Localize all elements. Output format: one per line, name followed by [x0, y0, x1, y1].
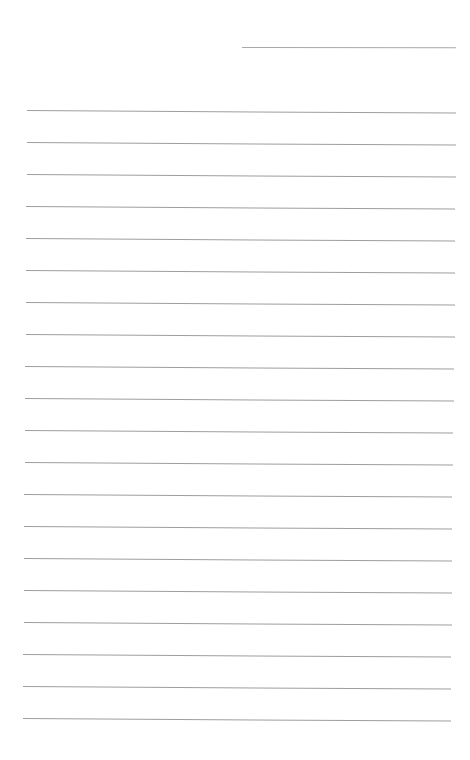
- ruled-line: [26, 302, 455, 306]
- ruled-line: [25, 462, 453, 466]
- lined-paper-page: [0, 0, 470, 760]
- ruled-lines-area: [0, 0, 470, 760]
- ruled-line: [24, 590, 452, 594]
- ruled-line: [24, 526, 452, 530]
- ruled-line: [26, 206, 455, 210]
- ruled-line: [25, 366, 454, 370]
- ruled-line: [23, 654, 451, 658]
- ruled-line: [27, 174, 456, 178]
- ruled-line: [27, 142, 456, 146]
- ruled-line: [24, 622, 452, 626]
- ruled-line: [26, 270, 455, 274]
- ruled-line: [25, 430, 453, 434]
- ruled-line: [23, 686, 451, 690]
- ruled-line: [26, 334, 455, 338]
- ruled-line: [24, 558, 452, 562]
- ruled-line: [27, 110, 456, 114]
- ruled-line: [25, 398, 454, 402]
- ruled-line: [24, 494, 452, 498]
- ruled-line: [26, 238, 455, 242]
- ruled-line: [23, 718, 451, 722]
